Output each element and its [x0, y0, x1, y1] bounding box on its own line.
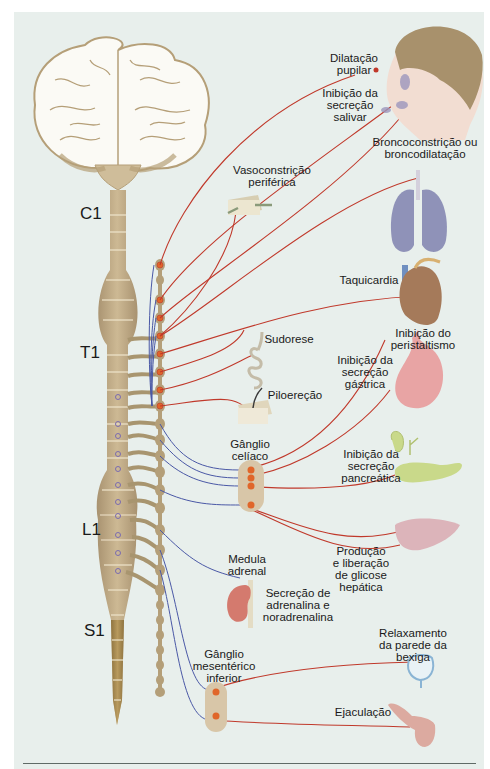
spinal-level-l1: L1	[82, 520, 101, 540]
adrenal-gland-icon	[227, 580, 253, 628]
label-liver-glucose: Produção e liberação de glicose hepática	[326, 545, 396, 593]
label-inferior-mesenteric-ganglion: Gânglio mesentérico inferior	[189, 648, 259, 684]
label-pupil-dilation: Dilatação pupilar	[321, 52, 387, 76]
liver-icon	[395, 519, 460, 551]
inferior-mesenteric-ganglion	[205, 682, 227, 732]
label-celiac-ganglion: Gânglio celíaco	[220, 438, 280, 462]
label-gastric-inhibition: Inibição da secreção gástrica	[330, 354, 400, 390]
spinal-level-c1: C1	[80, 204, 102, 224]
head-icon	[374, 26, 483, 140]
salivary-gland-icon	[400, 74, 410, 90]
spinal-cord	[97, 190, 138, 725]
label-peristalsis-inhibition: Inibição do peristaltismo	[383, 327, 463, 351]
label-adrenaline-secretion: Secreção de adrenalina e noradrenalina	[258, 587, 338, 623]
label-bladder-relaxation: Relaxamento da parede da bexiga	[370, 627, 456, 663]
heart-icon	[400, 260, 442, 326]
label-adrenal-medulla: Medula adrenal	[219, 553, 275, 577]
blood-vessel-icon	[228, 195, 272, 215]
bottom-rule	[23, 763, 476, 764]
label-sweating: Sudorese	[259, 333, 319, 345]
label-vasoconstriction: Vasoconstrição periférica	[229, 164, 315, 188]
label-bronchial: Broncoconstrição ou broncodilatação	[360, 136, 490, 160]
label-piloerection: Piloereção	[262, 389, 328, 401]
label-salivary-inhibition: Inibição da secreção salivar	[314, 87, 386, 123]
label-ejaculation: Ejaculação	[328, 706, 398, 718]
sympathetic-chain	[155, 259, 165, 697]
celiac-ganglion	[238, 460, 264, 512]
label-pancreatic-inhibition: Inibição da secreção pancreática	[336, 448, 406, 484]
label-tachycardia: Taquicardia	[334, 274, 404, 286]
spinal-level-t1: T1	[80, 343, 100, 363]
brain-icon	[34, 37, 208, 190]
lungs-icon	[391, 170, 447, 252]
spinal-level-s1: S1	[84, 621, 105, 641]
